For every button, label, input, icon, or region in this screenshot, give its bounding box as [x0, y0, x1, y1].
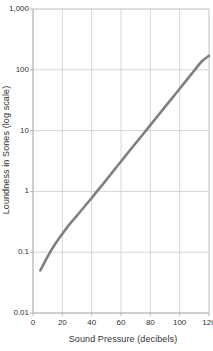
x-axis-title: Sound Pressure (decibels) — [33, 334, 213, 344]
x-tick-label: 60 — [106, 318, 136, 327]
x-tick-label: 0 — [18, 318, 48, 327]
x-tick-label: 120 — [194, 318, 213, 327]
plot-area — [0, 0, 213, 351]
y-tick-label: 100 — [1, 65, 29, 74]
x-tick-label: 40 — [77, 318, 107, 327]
x-tick-label: 20 — [47, 318, 77, 327]
y-tick-label: 10 — [1, 126, 29, 135]
y-tick-label: 1 — [1, 186, 29, 195]
y-tick-label: 0.1 — [1, 247, 29, 256]
data-series-line — [40, 56, 209, 271]
x-tick-label: 80 — [135, 318, 165, 327]
y-tick-label: 1,000 — [1, 4, 29, 13]
loudness-vs-sound-pressure-chart: Loundness in Sones (log scale) Sound Pre… — [0, 0, 213, 351]
x-tick-label: 100 — [165, 318, 195, 327]
y-tick-label: 0.01 — [1, 308, 29, 317]
